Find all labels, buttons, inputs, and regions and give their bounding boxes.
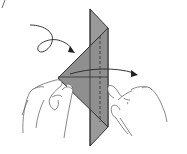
curl-arrow — [30, 25, 72, 52]
right-hand — [108, 85, 167, 136]
diagram-canvas — [0, 0, 187, 154]
fold-arrow-head — [131, 70, 138, 77]
left-hand — [22, 80, 73, 138]
curl-arrow-head — [68, 46, 75, 53]
origami-diagram: Origami folding step — [0, 0, 187, 154]
corner-mark — [2, 0, 5, 8]
